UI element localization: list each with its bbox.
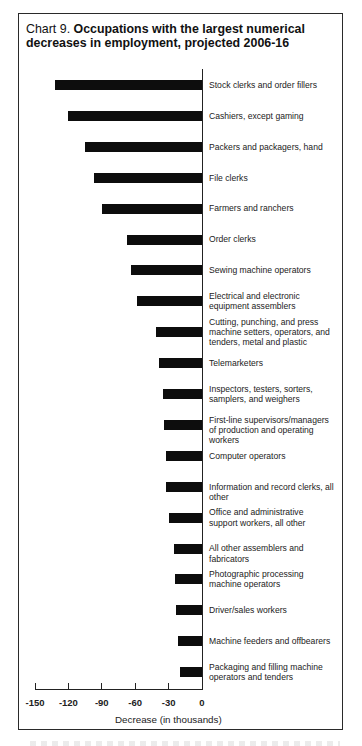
bar [174,544,202,554]
category-label: Packaging and filling machine operators … [209,662,341,683]
bar [166,451,202,461]
category-label: Information and record clerks, all other [209,482,341,503]
category-label: Sewing machine operators [209,265,341,275]
category-label: Inspectors, testers, sorters, samplers, … [209,384,341,405]
bar [166,482,202,492]
bar [127,235,202,245]
bar [178,636,202,646]
bar [175,574,202,584]
x-tick-label: -30 [154,697,184,708]
category-label: Driver/sales workers [209,605,341,615]
category-label: Cutting, punching, and press machine set… [209,317,341,348]
x-axis-title: Decrease (in thousands) [115,714,295,725]
x-tick [68,683,69,689]
bar [176,605,202,615]
x-tick [202,683,203,689]
x-tick [168,683,169,689]
x-tick [35,683,36,689]
category-label: File clerks [209,173,341,183]
bar [159,358,202,368]
x-tick-label: -120 [53,697,83,708]
clipped-text-below [30,741,340,746]
bar [85,142,202,152]
bar [156,327,202,337]
y-axis-line [202,69,203,690]
bar [180,667,202,677]
category-label: Farmers and ranchers [209,203,341,213]
x-tick-label: -60 [120,697,150,708]
category-label: Office and administrative support worker… [209,507,341,528]
category-label: Cashiers, except gaming [209,111,341,121]
category-label: Order clerks [209,234,341,244]
bar [131,265,202,275]
x-axis-line [35,689,203,690]
x-tick-label: 0 [187,697,217,708]
bar [169,513,202,523]
x-tick-label: -150 [20,697,50,708]
category-label: First-line supervisors/managers of produ… [209,415,341,446]
category-label: All other assemblers and fabricators [209,543,341,564]
bar [164,420,202,430]
x-tick [101,683,102,689]
x-tick [135,683,136,689]
category-label: Computer operators [209,451,341,461]
category-label: Telemarketers [209,358,341,368]
bar [55,80,202,90]
category-label: Stock clerks and order fillers [209,80,341,90]
bar [137,296,202,306]
plot-area: Decrease (in thousands) -150-120-90-60-3… [0,0,362,746]
bar [94,173,202,183]
category-label: Machine feeders and offbearers [209,636,341,646]
category-label: Electrical and electronic equipment asse… [209,291,341,312]
category-label: Packers and packagers, hand [209,142,341,152]
x-tick-label: -90 [87,697,117,708]
bar [102,204,202,214]
bar [163,389,202,399]
bar [68,111,202,121]
category-label: Photographic processing machine operator… [209,569,341,590]
